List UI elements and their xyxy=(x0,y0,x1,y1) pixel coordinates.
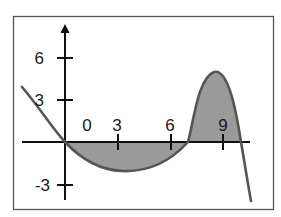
y-tick-label-minus-3: -3 xyxy=(35,176,50,195)
x-tick-label-9: 9 xyxy=(218,116,227,135)
x-tick-label-3: 3 xyxy=(112,116,121,135)
x-tick-label-0: 0 xyxy=(82,116,91,135)
y-tick-label-6: 6 xyxy=(35,49,44,68)
y-tick-label-3: 3 xyxy=(35,91,44,110)
chart-svg: 6 3 -3 0 3 6 9 xyxy=(0,0,281,217)
x-tick-label-6: 6 xyxy=(165,116,174,135)
